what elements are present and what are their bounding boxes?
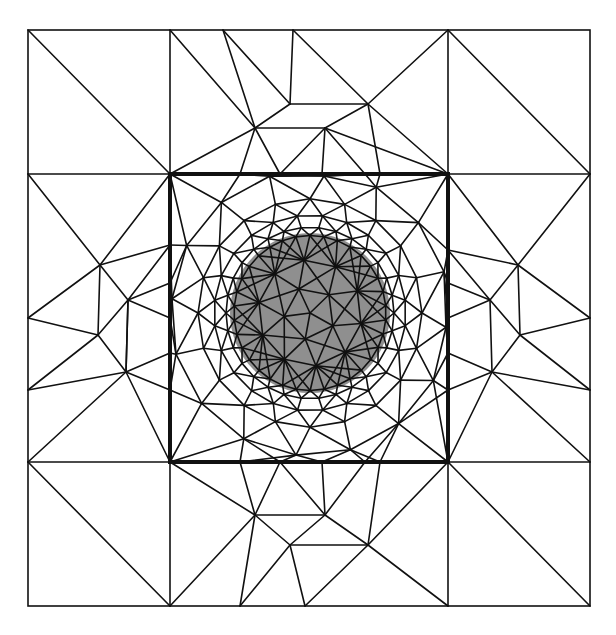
- mesh-edge: [518, 265, 520, 335]
- mesh-edge: [490, 300, 492, 372]
- radial-edge: [417, 348, 434, 380]
- block-edge: [170, 174, 221, 202]
- ring-edge: [228, 278, 233, 295]
- ring-edge: [417, 278, 422, 313]
- radial-edge: [405, 278, 416, 300]
- radial-edge: [422, 272, 444, 313]
- ring-edge: [176, 354, 202, 403]
- mesh-edge: [28, 372, 126, 462]
- radial-edge: [275, 204, 297, 216]
- mesh-edge: [325, 104, 368, 128]
- radial-edge: [392, 295, 405, 300]
- radial-edge: [219, 246, 221, 276]
- mesh-edge: [28, 462, 170, 606]
- ring-edge: [386, 350, 399, 372]
- mesh-diagram: [0, 0, 616, 635]
- ring-edge: [399, 275, 406, 300]
- mesh-edge: [100, 245, 170, 265]
- ring-edge: [392, 313, 394, 331]
- mesh-edge: [98, 300, 128, 335]
- mesh-edge: [368, 545, 448, 606]
- radial-edge: [270, 176, 310, 198]
- ring-edge: [202, 403, 244, 438]
- radial-edge: [219, 351, 221, 381]
- radial-edge: [376, 221, 419, 223]
- mesh-edge: [490, 265, 518, 300]
- radial-edge: [399, 350, 401, 380]
- ring-edge: [244, 405, 275, 421]
- radial-edge: [172, 299, 198, 313]
- radial-edge: [376, 405, 399, 423]
- radial-edge: [252, 377, 254, 391]
- radial-edge: [176, 348, 204, 354]
- radial-edge: [399, 380, 401, 423]
- mesh-edge: [368, 104, 380, 174]
- ring-edge: [215, 276, 221, 301]
- block-edge: [365, 424, 399, 462]
- mesh-edge: [448, 174, 518, 265]
- radial-edge: [221, 276, 233, 279]
- mesh-edges: [28, 30, 590, 606]
- radial-edge: [215, 326, 228, 331]
- mesh-edge: [28, 265, 100, 318]
- ring-edge: [399, 381, 434, 424]
- radial-edge: [234, 363, 242, 372]
- radial-edge: [249, 359, 284, 360]
- ring-edge: [187, 202, 222, 245]
- radial-edge: [298, 398, 302, 410]
- radial-edge: [203, 278, 214, 301]
- mesh-edge: [98, 265, 100, 335]
- radial-edge: [202, 380, 220, 403]
- mesh-edge: [448, 30, 590, 174]
- radial-edge: [273, 403, 275, 421]
- ring-edge: [310, 422, 345, 428]
- radial-edge: [394, 300, 405, 313]
- radial-edge: [198, 300, 215, 313]
- block-edge: [433, 381, 448, 462]
- mesh-edge: [28, 30, 170, 174]
- radial-edge: [417, 272, 445, 278]
- radial-edge: [244, 422, 276, 439]
- radial-edge: [386, 246, 401, 253]
- mesh-edge: [98, 335, 126, 372]
- radial-edge: [273, 204, 275, 222]
- mesh-edge: [492, 372, 590, 462]
- radial-edge: [297, 199, 310, 216]
- radial-edge: [310, 199, 322, 216]
- mesh-edge: [255, 462, 280, 515]
- ring-edge: [215, 326, 222, 351]
- radial-edge: [187, 245, 204, 277]
- ring-edge: [345, 405, 376, 421]
- radial-edge: [394, 313, 405, 326]
- mesh-edge: [492, 335, 520, 372]
- radial-edge: [366, 377, 368, 391]
- block-edge: [240, 439, 244, 462]
- radial-edge: [336, 394, 347, 403]
- radial-edge: [273, 223, 284, 232]
- mesh-edge: [368, 30, 448, 104]
- mesh-edge: [290, 30, 293, 104]
- mesh-edge: [368, 462, 448, 545]
- radial-edge: [392, 275, 398, 295]
- radial-edge: [219, 246, 233, 254]
- mesh-edge: [240, 545, 290, 606]
- ring-edge: [219, 380, 244, 405]
- block-edge: [399, 424, 448, 462]
- ring-edge: [244, 204, 275, 220]
- radial-edge: [368, 221, 375, 236]
- radial-edge: [176, 313, 198, 354]
- mesh-edge: [325, 128, 448, 174]
- mesh-edge: [255, 515, 290, 545]
- radial-edge: [401, 223, 419, 246]
- ring-edge: [392, 295, 394, 313]
- radial-edge: [399, 246, 401, 276]
- radial-edge: [198, 313, 215, 326]
- radial-edge: [399, 348, 417, 350]
- ring-edge: [399, 326, 405, 351]
- ring-edge: [221, 351, 234, 373]
- radial-edge: [422, 313, 446, 327]
- ring-edge: [203, 348, 219, 380]
- ring-edge: [387, 331, 392, 348]
- block-edge: [170, 390, 202, 403]
- radial-edge: [244, 221, 251, 236]
